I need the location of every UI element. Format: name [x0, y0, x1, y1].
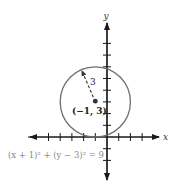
center-point: [93, 99, 98, 104]
circle-equation: (x + 1)² + (y − 3)² = 9: [8, 150, 104, 160]
center-label: (−1, 3): [72, 106, 107, 117]
circle-graph: x y 3 (−1, 3) (x + 1)² + (y − 3)² = 9: [0, 0, 183, 192]
y-axis-label: y: [103, 11, 110, 21]
radius-label: 3: [90, 77, 96, 87]
x-axis-label: x: [163, 132, 168, 142]
